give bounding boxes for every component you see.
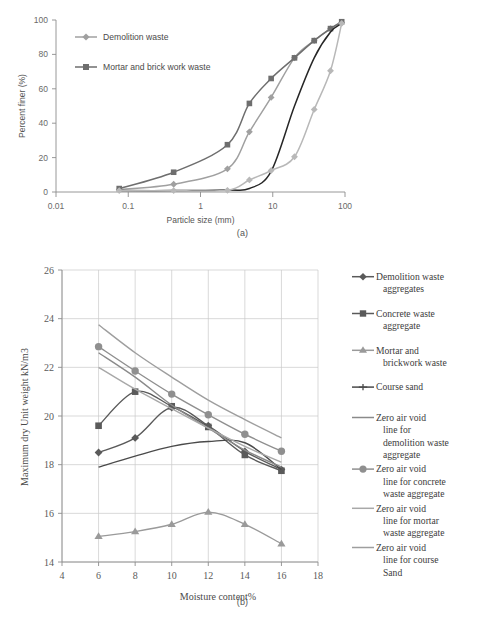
chart-b-x-ticks: 4681012141618 bbox=[60, 562, 324, 581]
chart-a-x-axis-title: Particle size (mm) bbox=[166, 215, 234, 225]
chart-b-ytick-4: 22 bbox=[44, 362, 54, 373]
chart-b-legend-label-0-cont1: aggregates bbox=[383, 283, 424, 294]
chart-b-legend-label-4-cont2: demolition waste bbox=[383, 437, 449, 448]
caption-a: (a) bbox=[0, 228, 485, 238]
chart-a-ytick-3: 60 bbox=[39, 84, 49, 94]
chart-a-legend-marker-1 bbox=[83, 64, 89, 70]
chart-a-y-axis-title: Percent finer (%) bbox=[17, 74, 27, 138]
chart-a-ytick-0: 0 bbox=[43, 187, 48, 197]
chart-a-point-3-2 bbox=[224, 187, 231, 194]
chart-a-legend-label-1: Mortar and brick work waste bbox=[103, 62, 211, 72]
chart-b-point-1-0 bbox=[95, 422, 102, 429]
chart-a-legend-label-0: Demolition waste bbox=[103, 32, 169, 42]
chart-a-point-1-3 bbox=[247, 101, 253, 107]
chart-b-series-5 bbox=[99, 347, 282, 452]
chart-a-xtick-3: 10 bbox=[268, 201, 278, 211]
chart-b-legend-label-5-cont2: waste aggregate bbox=[383, 488, 445, 499]
chart-b-legend-label-2: Mortar and bbox=[376, 345, 419, 356]
chart-b-legend-label-6-cont1: line for mortar bbox=[383, 515, 440, 526]
chart-a-point-1-2 bbox=[225, 142, 231, 148]
chart-a-legend-marker-0 bbox=[82, 33, 89, 40]
chart-a-point-1-6 bbox=[311, 38, 317, 44]
chart-b-y-ticks: 14161820222426 bbox=[44, 265, 62, 568]
chart-b-xtick-6: 16 bbox=[276, 570, 286, 581]
chart-b-ytick-5: 24 bbox=[44, 313, 54, 324]
chart-b-point-2-3 bbox=[204, 508, 212, 515]
chart-b-point-5-3 bbox=[205, 411, 212, 418]
chart-b-legend-label-7-cont1: line for course bbox=[383, 554, 438, 565]
chart-b-legend-label-1: Concrete waste bbox=[376, 308, 435, 319]
chart-b-xtick-3: 10 bbox=[167, 570, 177, 581]
chart-b-series-2 bbox=[99, 512, 282, 544]
chart-b-ytick-6: 26 bbox=[44, 265, 54, 276]
chart-b-legend-marker-1 bbox=[360, 310, 366, 316]
chart-a-ytick-1: 20 bbox=[39, 153, 49, 163]
chart-b-legend-label-4-cont1: line for bbox=[383, 424, 412, 435]
chart-b-point-1-4 bbox=[242, 452, 249, 459]
chart-a-ytick-4: 80 bbox=[39, 49, 49, 59]
chart-a-point-3-1 bbox=[170, 187, 177, 194]
chart-a-point-3-3 bbox=[246, 177, 253, 184]
chart-a-point-1-5 bbox=[292, 55, 298, 61]
chart-b-ytick-3: 20 bbox=[44, 411, 54, 422]
chart-a-xtick-4: 100 bbox=[338, 201, 352, 211]
chart-b-point-2-5 bbox=[277, 540, 285, 547]
chart-b-xtick-5: 14 bbox=[240, 570, 250, 581]
chart-b-legend-label-4-cont3: aggregate bbox=[383, 449, 420, 460]
chart-b-legend-label-1-cont1: aggregate bbox=[383, 320, 420, 331]
chart-b-ytick-0: 14 bbox=[44, 557, 54, 568]
chart-b-point-5-0 bbox=[95, 343, 102, 350]
chart-panel-b: 14161820222426 4681012141618 Moisture co… bbox=[0, 252, 485, 624]
chart-b-point-5-1 bbox=[131, 367, 138, 374]
chart-a-svg: 0 20 40 60 80 100 0.01 0.1 1 10 100 bbox=[0, 0, 485, 228]
chart-b-legend-marker-0 bbox=[359, 273, 367, 281]
figure-container: 0 20 40 60 80 100 0.01 0.1 1 10 100 bbox=[0, 0, 485, 624]
chart-b-xtick-0: 4 bbox=[60, 570, 65, 581]
chart-b-ytick-2: 18 bbox=[44, 459, 54, 470]
chart-b-legend-label-6: Zero air void bbox=[376, 503, 426, 514]
chart-a-series-1 bbox=[119, 22, 341, 189]
chart-b-legend: Demolition wasteaggregatesConcrete waste… bbox=[352, 271, 449, 578]
chart-b-point-5-4 bbox=[241, 431, 248, 438]
chart-b-series-7 bbox=[99, 325, 282, 438]
chart-b-point-5-5 bbox=[278, 448, 285, 455]
chart-a-xtick-0: 0.01 bbox=[48, 201, 65, 211]
chart-b-point-0-0 bbox=[95, 449, 103, 457]
chart-a-xtick-1: 0.1 bbox=[122, 201, 134, 211]
chart-a-series-0 bbox=[119, 23, 341, 190]
chart-a-point-3-7 bbox=[327, 67, 334, 74]
chart-b-legend-label-7: Zero air void bbox=[376, 542, 426, 553]
chart-a-ytick-2: 40 bbox=[39, 118, 49, 128]
chart-b-legend-label-5-cont1: line for concrete bbox=[383, 476, 446, 487]
chart-a-legend: Demolition wasteMortar and brick work wa… bbox=[75, 32, 211, 72]
chart-a-point-0-3 bbox=[246, 128, 253, 135]
chart-a-x-ticks: 0.01 0.1 1 10 100 bbox=[48, 192, 353, 211]
chart-a-point-1-4 bbox=[268, 76, 274, 82]
chart-b-legend-label-4: Zero air void bbox=[376, 412, 426, 423]
chart-a-point-0-1 bbox=[170, 181, 177, 188]
chart-b-legend-label-5: Zero air void bbox=[376, 463, 426, 474]
chart-b-point-5-2 bbox=[168, 390, 175, 397]
chart-b-y-axis-title: Maximum dry Unit weight kN/m3 bbox=[19, 348, 30, 486]
chart-b-xtick-4: 12 bbox=[203, 570, 213, 581]
chart-b-legend-marker-5 bbox=[359, 466, 366, 473]
chart-a-point-1-1 bbox=[171, 169, 177, 175]
chart-a-y-ticks: 0 20 40 60 80 100 bbox=[34, 15, 56, 197]
chart-b-xtick-1: 6 bbox=[96, 570, 101, 581]
chart-b-legend-marker-3 bbox=[359, 384, 367, 390]
chart-a-point-0-4 bbox=[268, 94, 275, 101]
chart-a-ytick-5: 100 bbox=[34, 15, 48, 25]
chart-a-point-3-6 bbox=[311, 106, 318, 113]
chart-b-legend-label-3: Course sand bbox=[376, 381, 423, 392]
chart-b-xtick-7: 18 bbox=[313, 570, 323, 581]
chart-a-series-group bbox=[116, 19, 345, 194]
chart-b-legend-label-2-cont1: brickwork waste bbox=[383, 357, 447, 368]
chart-b-xtick-2: 8 bbox=[133, 570, 138, 581]
chart-b-ytick-1: 16 bbox=[44, 508, 54, 519]
chart-panel-a: 0 20 40 60 80 100 0.01 0.1 1 10 100 bbox=[0, 0, 485, 228]
chart-a-xtick-2: 1 bbox=[198, 201, 203, 211]
chart-b-legend-label-6-cont2: waste aggregate bbox=[383, 527, 445, 538]
caption-b: (b) bbox=[0, 597, 485, 607]
chart-b-svg: 14161820222426 4681012141618 Moisture co… bbox=[0, 252, 485, 624]
chart-b-legend-label-7-cont2: Sand bbox=[383, 567, 402, 578]
